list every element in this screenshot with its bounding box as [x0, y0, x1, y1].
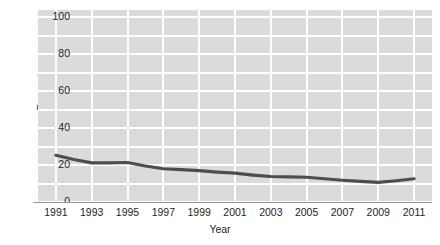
series-path	[56, 155, 414, 182]
x-axis-line	[33, 202, 432, 203]
x-tick-label: 2011	[392, 206, 436, 218]
plot-area: 020406080100	[38, 10, 432, 202]
x-axis-title: Year	[0, 223, 440, 235]
data-series-line	[38, 10, 432, 202]
line-chart: Percent 020406080100 1991199319951997199…	[0, 0, 440, 245]
